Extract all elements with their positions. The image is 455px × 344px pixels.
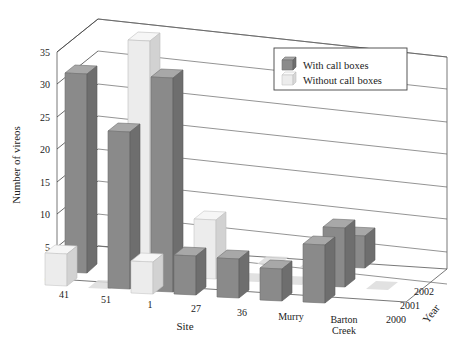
x-tick-creek: Creek xyxy=(332,325,356,336)
bar-bartoncreek-2000-with xyxy=(303,236,335,303)
x-tick-41: 41 xyxy=(59,289,69,300)
y-tick-10: 10 xyxy=(40,209,50,220)
bar-41-2001-with xyxy=(65,65,97,273)
bar-27-2000-with xyxy=(174,247,206,295)
chart-container: 35 30 25 20 15 10 5 0 Number of vireos xyxy=(0,0,455,344)
x-tick-36: 36 xyxy=(237,307,247,318)
y-tick-labels: 35 30 25 20 15 10 5 0 xyxy=(40,47,50,285)
bar-41-2000-without xyxy=(45,245,77,286)
x-axis-title: Site xyxy=(176,320,193,332)
y-tick-15: 15 xyxy=(40,177,50,188)
legend-swatch-light-icon xyxy=(282,72,296,85)
y-tick-30: 30 xyxy=(40,79,50,90)
x-tick-murry: Murry xyxy=(278,311,304,322)
y-tick-35: 35 xyxy=(40,47,50,58)
bar-murry-2000-with xyxy=(260,260,292,301)
z-tick-2002: 2002 xyxy=(414,286,434,297)
bar-36-2000-with xyxy=(217,250,249,298)
x-tick-1: 1 xyxy=(148,299,153,310)
bar-1-2000-without xyxy=(131,253,163,294)
y-tick-20: 20 xyxy=(40,144,50,155)
legend-label-with: With call boxes xyxy=(303,60,368,71)
legend-label-without: Without call boxes xyxy=(303,75,382,86)
x-tick-27: 27 xyxy=(191,303,201,314)
legend-swatch-dark-icon xyxy=(282,57,296,70)
x-tick-51: 51 xyxy=(101,294,111,305)
z-tick-2000: 2000 xyxy=(386,314,406,325)
y-tick-25: 25 xyxy=(40,112,50,123)
z-axis-title: Year xyxy=(420,302,442,326)
legend[interactable]: With call boxes Without call boxes xyxy=(274,48,407,90)
x-tick-barton: Barton xyxy=(330,314,357,325)
vireo-3d-bar-chart: 35 30 25 20 15 10 5 0 Number of vireos xyxy=(0,0,455,344)
z-tick-2001: 2001 xyxy=(400,300,420,311)
y-axis-title: Number of vireos xyxy=(10,126,22,204)
